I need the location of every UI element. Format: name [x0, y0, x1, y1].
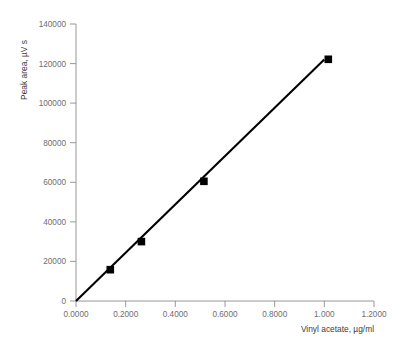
- x-tick-label: 0.2000: [113, 310, 138, 319]
- y-tick-label: 80000: [43, 139, 66, 148]
- x-tick-label: 0.4000: [163, 310, 188, 319]
- data-point-marker: [138, 238, 146, 246]
- data-point-marker: [107, 266, 115, 274]
- y-tick-label: 140000: [39, 20, 67, 29]
- y-axis-title: Peak area, µV s: [19, 40, 29, 100]
- data-point-marker: [325, 56, 333, 64]
- data-point-marker: [200, 178, 208, 186]
- x-tick-label: 1.000: [314, 310, 335, 319]
- y-tick-label: 120000: [39, 60, 67, 69]
- x-tick-label: 0.0000: [63, 310, 88, 319]
- y-tick-label: 0: [61, 297, 66, 306]
- y-tick-label: 20000: [43, 257, 66, 266]
- x-axis-title: Vinyl acetate, µg/ml: [301, 324, 374, 334]
- x-tick-label: 0.6000: [212, 310, 237, 319]
- x-tick-label: 1.2000: [361, 310, 386, 319]
- y-tick-label: 40000: [43, 218, 66, 227]
- figure-container: 140000 120000 100000 80000 60000 40000 2…: [0, 0, 410, 350]
- calibration-curve-chart: 140000 120000 100000 80000 60000 40000 2…: [0, 0, 410, 350]
- y-tick-label: 100000: [39, 99, 67, 108]
- y-tick-label: 60000: [43, 178, 66, 187]
- x-tick-label: 0.8000: [262, 310, 287, 319]
